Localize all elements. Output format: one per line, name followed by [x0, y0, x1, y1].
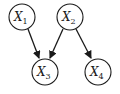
node-x4-subscript: 4 — [99, 72, 104, 81]
node-x2-label: X — [61, 10, 71, 24]
edge-x1-x3 — [28, 29, 39, 58]
node-x3-label: X — [36, 65, 46, 79]
node-x2: X2 — [57, 4, 83, 30]
node-x1-subscript: 1 — [23, 17, 28, 26]
node-x2-subscript: 2 — [71, 17, 76, 26]
bayesian-network-diagram: X1 X2 X3 X4 — [0, 0, 120, 94]
edge-x2-x3 — [50, 29, 63, 58]
node-x3: X3 — [32, 59, 58, 85]
node-x1: X1 — [9, 4, 35, 30]
node-x4: X4 — [85, 59, 111, 85]
node-x4-label: X — [89, 65, 99, 79]
edge-x2-x4 — [76, 29, 91, 58]
node-x3-subscript: 3 — [46, 72, 51, 81]
node-x1-label: X — [13, 10, 23, 24]
